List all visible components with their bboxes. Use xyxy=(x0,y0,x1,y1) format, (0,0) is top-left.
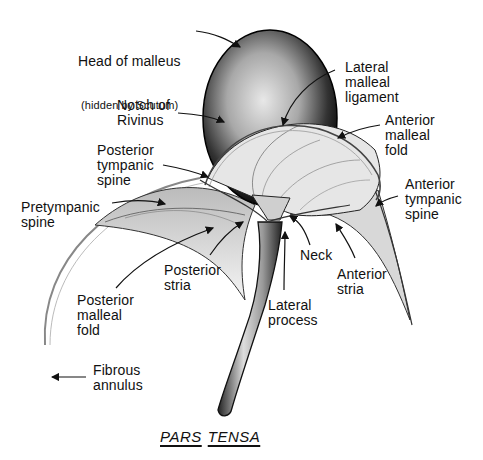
label-anterior-tympanic-spine: Anterior tympanic spine xyxy=(405,177,462,222)
label-lateral-malleal-ligament: Lateral malleal ligament xyxy=(345,60,399,105)
label-posterior-stria: Posterior stria xyxy=(164,263,221,293)
pars-tensa-illustration xyxy=(0,0,483,460)
head-of-malleus-text: Head of malleus xyxy=(78,54,181,69)
label-notch-of-rivinus: Notch of Rivinus xyxy=(117,98,170,128)
label-posterior-tympanic-spine: Posterior tympanic spine xyxy=(97,143,154,188)
label-anterior-malleal-fold: Anterior malleal fold xyxy=(385,113,435,158)
figure-caption: PARSTENSA xyxy=(160,428,266,445)
label-fibrous-annulus: Fibrous annulus xyxy=(93,363,143,393)
label-anterior-stria: Anterior stria xyxy=(337,267,387,297)
caption-word-pars: PARS xyxy=(160,428,202,445)
label-posterior-malleal-fold: Posterior malleal fold xyxy=(77,293,134,338)
label-lateral-process: Lateral process xyxy=(268,298,318,328)
caption-word-tensa: TENSA xyxy=(208,428,261,445)
label-pretympanic-spine: Pretympanic spine xyxy=(21,200,100,230)
label-neck: Neck xyxy=(300,248,332,263)
